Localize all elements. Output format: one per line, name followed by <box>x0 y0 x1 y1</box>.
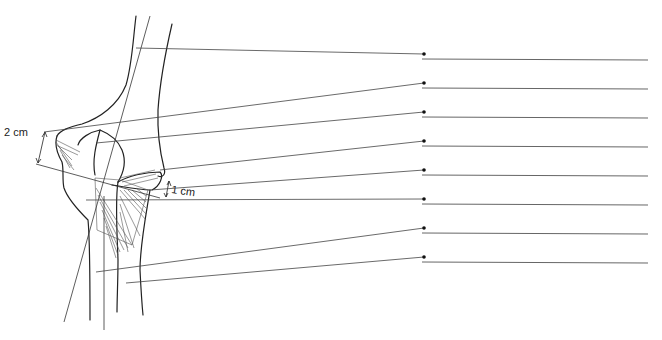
measurement-2cm <box>36 132 47 163</box>
bone-outlines <box>56 16 172 320</box>
leader-lines <box>44 48 424 283</box>
leader-dots <box>422 52 426 259</box>
elbow-diagram: 2 cm 1 cm <box>0 0 662 340</box>
measurement-label-1cm: 1 cm <box>171 183 196 198</box>
answer-lines <box>422 59 648 263</box>
measurement-label-2cm: 2 cm <box>4 126 28 138</box>
